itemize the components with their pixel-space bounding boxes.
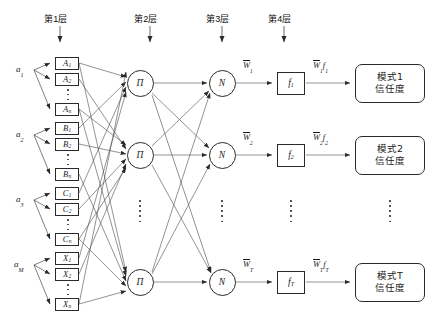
- membership-box-c2[interactable]: C2: [55, 203, 79, 216]
- output-line-1: 模式1: [377, 72, 403, 83]
- mf-sub: 2: [69, 274, 72, 280]
- product-f-sub: 1: [325, 68, 328, 74]
- mf-label: B: [63, 124, 68, 133]
- membership-box-b2[interactable]: B2: [55, 138, 79, 151]
- membership-box-x2[interactable]: X2: [55, 268, 79, 281]
- input-base: a: [16, 194, 21, 204]
- product-label-wf1: W1f1: [313, 60, 328, 72]
- pi-symbol: Π: [137, 150, 144, 160]
- membership-box-b1[interactable]: B1: [55, 122, 79, 135]
- mf-label: C: [63, 205, 69, 214]
- output-line-2: 信任度: [375, 283, 405, 294]
- pi-symbol: Π: [137, 78, 144, 88]
- f-sub: 1: [291, 82, 294, 88]
- function-box-ft[interactable]: fT: [277, 271, 305, 294]
- mf-sub: 2: [69, 144, 72, 150]
- input-base: a: [16, 129, 21, 139]
- output-line-2: 信任度: [375, 84, 405, 95]
- layer-label-1: 第1层: [44, 12, 68, 25]
- input-sub: 2: [21, 137, 24, 143]
- f-column-ellipsis: [289, 200, 293, 222]
- membership-ellipsis-b: [66, 154, 70, 165]
- mf-sub: 1: [69, 258, 72, 264]
- weight-label-w2: W2: [243, 132, 253, 144]
- n-node-1[interactable]: N: [209, 70, 236, 97]
- membership-box-a1[interactable]: A1: [55, 57, 79, 70]
- output-column-ellipsis: [388, 200, 392, 222]
- weight-sub: 2: [250, 140, 253, 146]
- input-variable-a2: a2: [16, 129, 24, 141]
- membership-box-xn[interactable]: Xn: [55, 298, 79, 311]
- diagram-canvas: 第1层 第2层 第3层 第4层 a1 a2 a3 aM A1 A2 An B1 …: [0, 0, 433, 332]
- input-variable-a1: a1: [16, 64, 24, 76]
- layer-label-4: 第4层: [268, 12, 292, 25]
- mf-sub: 1: [69, 63, 72, 69]
- mf-label: B: [63, 140, 68, 149]
- pi-node-2[interactable]: Π: [127, 142, 154, 169]
- f-sub: 2: [291, 154, 294, 160]
- product-w-sub: 2: [320, 140, 323, 146]
- n-column-ellipsis: [220, 200, 224, 222]
- layer-label-2: 第2层: [134, 12, 158, 25]
- mf-label: X: [63, 270, 68, 279]
- product-label-wf2: W2f2: [313, 132, 328, 144]
- mf-sub: 2: [69, 209, 72, 215]
- membership-box-c1[interactable]: C1: [55, 187, 79, 200]
- product-label-wft: WTfT: [313, 259, 329, 271]
- function-box-f1[interactable]: f1: [277, 72, 305, 95]
- f-sub: T: [291, 281, 294, 287]
- mf-sub: n: [69, 109, 72, 115]
- mf-sub: 1: [69, 128, 72, 134]
- input-sub: 3: [21, 202, 24, 208]
- n-symbol: N: [219, 78, 225, 88]
- n-symbol: N: [219, 150, 225, 160]
- mf-label: A: [63, 59, 68, 68]
- membership-box-bn[interactable]: Bn: [55, 168, 79, 181]
- mf-label: X: [63, 254, 68, 263]
- output-box-2[interactable]: 模式2 信任度: [355, 136, 425, 175]
- product-w-sub: 1: [320, 68, 323, 74]
- input-variable-a3: a3: [16, 194, 24, 206]
- membership-box-x1[interactable]: X1: [55, 252, 79, 265]
- mf-label: C: [63, 235, 69, 244]
- mf-sub: n: [69, 239, 72, 245]
- mf-sub: n: [69, 304, 72, 310]
- mf-label: B: [63, 170, 68, 179]
- mf-label: C: [63, 189, 69, 198]
- product-f-sub: T: [326, 267, 329, 273]
- output-line-1: 模式2: [377, 144, 403, 155]
- input-base: a: [14, 259, 19, 269]
- weight-sub: T: [250, 267, 253, 273]
- layer-label-3: 第3层: [206, 12, 230, 25]
- membership-ellipsis-c: [66, 219, 70, 230]
- output-line-1: 模式T: [377, 271, 403, 282]
- output-box-t[interactable]: 模式T 信任度: [355, 263, 425, 302]
- membership-box-cn[interactable]: Cn: [55, 233, 79, 246]
- pi-node-1[interactable]: Π: [127, 70, 154, 97]
- mf-label: A: [63, 105, 68, 114]
- function-box-f2[interactable]: f2: [277, 144, 305, 167]
- input-variable-aM: aM: [14, 259, 24, 271]
- product-f-sub: 2: [325, 140, 328, 146]
- membership-ellipsis-a: [66, 89, 70, 100]
- product-w-sub: T: [320, 267, 323, 273]
- output-line-2: 信任度: [375, 156, 405, 167]
- pi-symbol: Π: [137, 277, 144, 287]
- n-node-2[interactable]: N: [209, 142, 236, 169]
- membership-ellipsis-x: [66, 284, 70, 295]
- mf-sub: 1: [69, 193, 72, 199]
- input-base: a: [16, 64, 21, 74]
- weight-label-w1: W1: [243, 60, 253, 72]
- mf-sub: 2: [69, 79, 72, 85]
- n-symbol: N: [219, 277, 225, 287]
- weight-label-wt: WT: [243, 259, 253, 271]
- membership-box-a2[interactable]: A2: [55, 73, 79, 86]
- weight-sub: 1: [250, 68, 253, 74]
- mf-label: X: [63, 300, 68, 309]
- output-box-1[interactable]: 模式1 信任度: [355, 64, 425, 103]
- mf-sub: n: [69, 174, 72, 180]
- membership-box-an[interactable]: An: [55, 103, 79, 116]
- n-node-t[interactable]: N: [209, 269, 236, 296]
- pi-node-t[interactable]: Π: [127, 269, 154, 296]
- mf-label: A: [63, 75, 68, 84]
